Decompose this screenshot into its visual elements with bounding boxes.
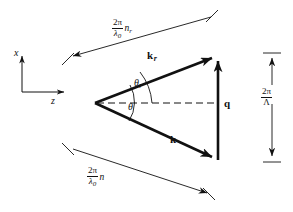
diagram-canvas — [0, 0, 293, 212]
vector-k — [95, 103, 212, 157]
vector-label-kr-base: k — [147, 49, 153, 61]
vector-label-k: k — [170, 134, 176, 145]
wave-vector-diagram: x z kr k q θr θ 2πλ0nr 2πλ0n 2πΛ — [0, 0, 293, 212]
dimension-label-q-magnitude: 2πΛ — [261, 87, 272, 108]
fraction-k-denominator: λ0 — [87, 176, 98, 189]
dimension-label-k-magnitude: 2πλ0n — [87, 166, 104, 189]
dimension-k-trailing-base: n — [100, 172, 105, 182]
dimension-tick-k-right — [203, 188, 215, 200]
dimension-k-trailing: n — [100, 172, 105, 182]
fraction-q: 2πΛ — [261, 87, 272, 108]
vector-label-kr-subscript: r — [154, 54, 157, 63]
dimension-arrow-kr-left — [73, 17, 211, 56]
vector-label-kr: kr — [147, 50, 157, 63]
fraction-q-numerator: 2π — [261, 87, 272, 97]
z-axis-label: z — [51, 96, 55, 106]
fraction-k: 2πλ0 — [87, 166, 98, 189]
vector-kr — [95, 58, 212, 103]
dimension-kr-trailing: nr — [125, 23, 132, 33]
dimension-label-kr-magnitude: 2πλ0nr — [112, 18, 132, 41]
angle-symbol-theta: θ — [128, 101, 133, 112]
fraction-q-denominator-base: Λ — [263, 97, 270, 107]
fraction-k-numerator: 2π — [87, 166, 98, 176]
angle-label-theta-r: θr — [134, 78, 142, 89]
fraction-q-denominator: Λ — [261, 97, 272, 108]
dimension-line-k — [62, 143, 215, 200]
angle-label-theta: θ — [128, 102, 133, 112]
coordinate-axes — [22, 56, 64, 92]
vector-label-k-base: k — [170, 133, 176, 145]
dimension-line-kr — [62, 10, 218, 65]
fraction-kr-denominator-subscript: 0 — [118, 32, 122, 40]
angle-subscript-theta-r: r — [139, 81, 142, 90]
vector-label-q: q — [224, 98, 230, 109]
vector-label-q-base: q — [224, 97, 230, 109]
dimension-tick-kr-left — [62, 53, 74, 65]
dimension-kr-trailing-subscript: r — [129, 27, 132, 35]
fraction-k-denominator-subscript: 0 — [93, 180, 97, 188]
dimension-tick-k-left — [62, 143, 74, 155]
fraction-kr-denominator: λ0 — [112, 28, 123, 41]
fraction-kr: 2πλ0 — [112, 18, 123, 41]
fraction-kr-numerator: 2π — [112, 18, 123, 28]
dimension-tick-kr-right — [206, 10, 218, 22]
x-axis-label: x — [14, 48, 18, 58]
